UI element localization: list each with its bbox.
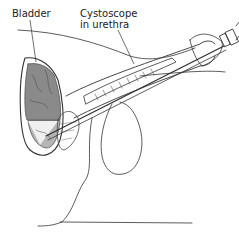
leader-lines (0, 0, 239, 234)
leader-cystoscope (118, 30, 134, 64)
leader-bladder (30, 20, 36, 62)
